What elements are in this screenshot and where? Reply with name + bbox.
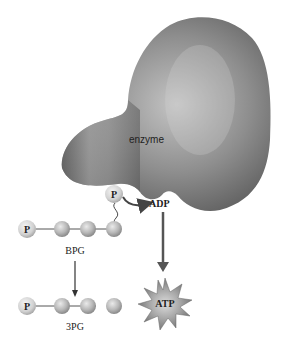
enzyme-label: enzyme xyxy=(129,134,164,145)
enzyme-shading xyxy=(62,100,140,192)
enzyme-highlight xyxy=(165,45,235,155)
svg-text:ATP: ATP xyxy=(155,298,174,309)
bpg-label: BPG xyxy=(65,245,84,256)
svg-text:P: P xyxy=(24,224,30,235)
3pg-molecule: P xyxy=(18,297,122,315)
phosphate-detaching: P xyxy=(105,185,123,203)
svg-text:P: P xyxy=(24,301,30,312)
transfer-arrow xyxy=(123,197,146,205)
svg-text:P: P xyxy=(111,189,117,200)
bpg-to-3pg-arrowhead xyxy=(72,290,78,297)
adp-to-atp-arrowhead xyxy=(157,262,169,272)
enzyme-diagram: enzyme P ADP ATP P BPG P 3PG xyxy=(0,0,282,343)
3pg-label: 3PG xyxy=(66,321,84,332)
bpg-molecule: P xyxy=(18,220,122,238)
adp-label: ADP xyxy=(149,198,170,209)
atp-burst: ATP xyxy=(138,278,192,330)
